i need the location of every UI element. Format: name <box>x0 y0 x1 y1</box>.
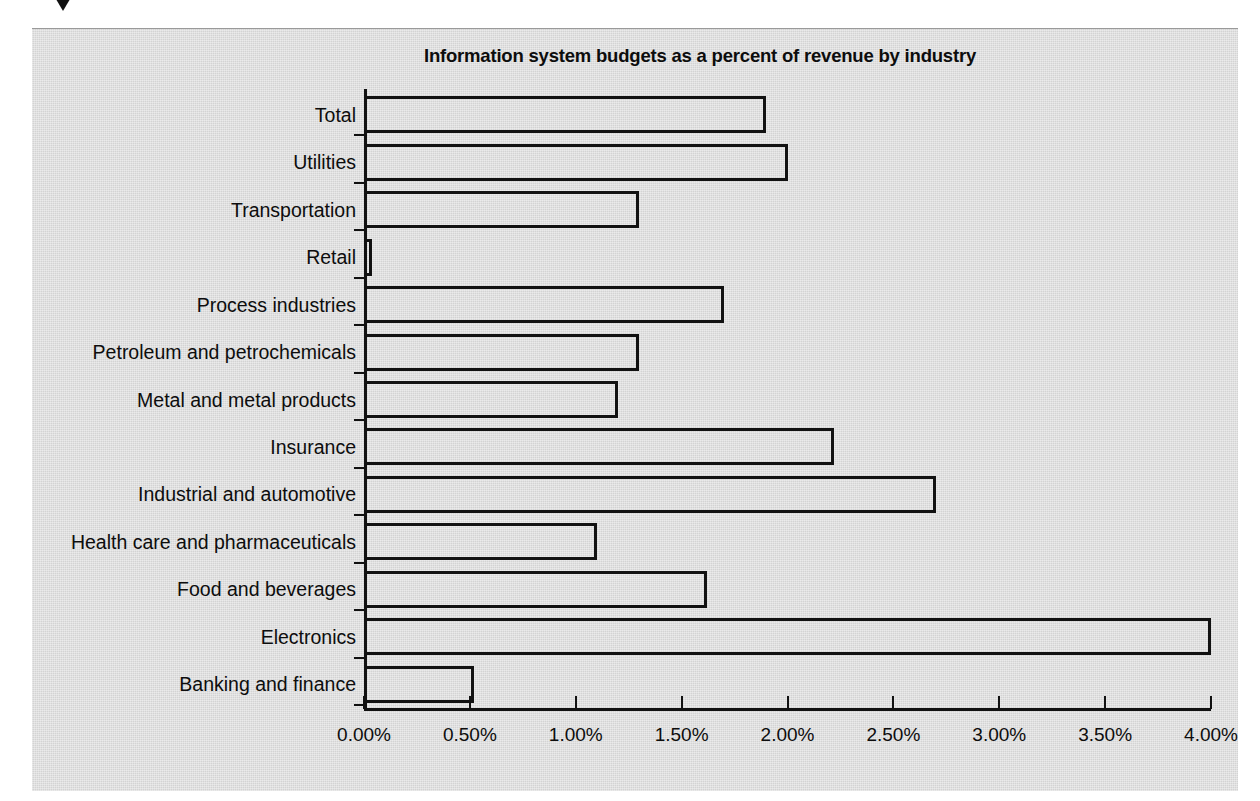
x-axis-tick-label: 1.50% <box>655 724 709 746</box>
bar <box>364 239 372 276</box>
bar <box>364 428 834 465</box>
x-axis-tick-label: 2.00% <box>761 724 815 746</box>
y-axis-tick <box>354 134 366 136</box>
bar <box>364 191 639 228</box>
x-axis-tick <box>998 696 1000 709</box>
y-axis-tick <box>354 419 366 421</box>
triangle-down-icon <box>53 0 73 11</box>
x-axis-tick-label: 0.50% <box>443 724 497 746</box>
plot-area: 0.00%0.50%1.00%1.50%2.00%2.50%3.00%3.50%… <box>32 29 1238 791</box>
bar <box>364 618 1211 655</box>
y-axis-tick <box>354 514 366 516</box>
bar <box>364 476 936 513</box>
x-axis-tick <box>1210 696 1212 709</box>
bar <box>364 523 597 560</box>
bar <box>364 334 639 371</box>
bar <box>364 571 707 608</box>
bar <box>364 286 724 323</box>
y-axis-category-label: Banking and finance <box>179 673 356 696</box>
x-axis-tick <box>681 696 683 709</box>
y-axis-category-label: Process industries <box>197 293 356 316</box>
y-axis-category-label: Food and beverages <box>177 578 356 601</box>
bar <box>364 144 788 181</box>
y-axis-tick <box>354 467 366 469</box>
y-axis-category-label: Petroleum and petrochemicals <box>93 341 356 364</box>
y-axis-tick <box>354 277 366 279</box>
y-axis-category-label: Health care and pharmaceuticals <box>71 530 356 553</box>
x-axis-tick <box>575 696 577 709</box>
y-axis-tick <box>354 562 366 564</box>
y-axis-category-label: Insurance <box>270 435 356 458</box>
x-axis-tick-label: 2.50% <box>866 724 920 746</box>
y-axis-category-label: Utilities <box>293 151 356 174</box>
chart-figure-panel: Information system budgets as a percent … <box>32 28 1238 791</box>
y-axis-tick <box>354 704 366 706</box>
x-axis-tick-label: 1.00% <box>549 724 603 746</box>
y-axis-category-label: Retail <box>306 246 356 269</box>
x-axis-tick <box>1104 696 1106 709</box>
y-axis-tick <box>354 229 366 231</box>
y-axis-category-label: Total <box>315 103 356 126</box>
x-axis-tick-label: 3.00% <box>972 724 1026 746</box>
x-axis-tick-label: 0.00% <box>337 724 391 746</box>
y-axis-category-label: Transportation <box>231 198 356 221</box>
bar <box>364 96 766 133</box>
x-axis-tick <box>892 696 894 709</box>
bar <box>364 381 618 418</box>
x-axis-tick-label: 3.50% <box>1078 724 1132 746</box>
y-axis-tick <box>354 182 366 184</box>
x-axis-tick-label: 4.00% <box>1184 724 1238 746</box>
y-axis-tick <box>354 657 366 659</box>
y-axis-tick <box>354 372 366 374</box>
y-axis-category-label: Industrial and automotive <box>138 483 356 506</box>
y-axis-tick <box>354 609 366 611</box>
bar <box>364 666 474 703</box>
x-axis-tick <box>787 696 789 709</box>
y-axis-category-label: Metal and metal products <box>137 388 356 411</box>
y-axis-category-label: Electronics <box>261 625 356 648</box>
y-axis-tick <box>354 324 366 326</box>
